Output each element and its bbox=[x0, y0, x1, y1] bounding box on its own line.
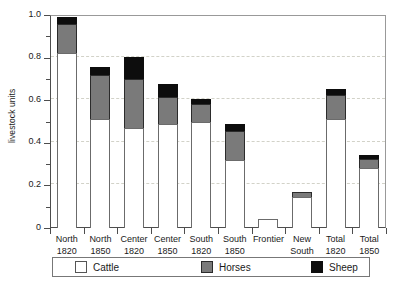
bar-column bbox=[292, 192, 312, 228]
bar-segment-cattle bbox=[191, 122, 211, 229]
x-label-line2: 1850 bbox=[151, 246, 185, 258]
bar-column bbox=[90, 67, 110, 228]
legend-label: Cattle bbox=[93, 262, 119, 273]
legend-item-horses[interactable]: Horses bbox=[201, 258, 251, 276]
bar-column bbox=[191, 99, 211, 228]
x-label-line1: Total bbox=[319, 234, 353, 246]
bar-segment-sheep bbox=[158, 84, 178, 97]
legend-label: Sheep bbox=[329, 262, 358, 273]
chart-plot-area: livestock units 00.20.40.60.81.0 North18… bbox=[0, 0, 398, 287]
x-axis-category-label: South1820 bbox=[184, 234, 218, 257]
legend-item-sheep[interactable]: Sheep bbox=[311, 258, 358, 276]
x-label-line1: Total bbox=[352, 234, 386, 246]
bar-column bbox=[225, 124, 245, 228]
bar-segment-horses bbox=[90, 75, 110, 120]
x-label-line1: South bbox=[218, 234, 252, 246]
x-label-line2: 1820 bbox=[117, 246, 151, 258]
bar-segment-cattle bbox=[258, 219, 278, 228]
x-label-line1: Center bbox=[117, 234, 151, 246]
x-label-line2: 1850 bbox=[218, 246, 252, 258]
bar-segment-cattle bbox=[326, 119, 346, 228]
y-axis-label: livestock units bbox=[4, 0, 20, 232]
bar-segment-sheep bbox=[124, 57, 144, 79]
chart-legend: CattleHorsesSheep bbox=[52, 257, 370, 277]
x-label-line2: 1850 bbox=[84, 246, 118, 258]
bar-segment-horses bbox=[158, 97, 178, 124]
bar-segment-cattle bbox=[90, 119, 110, 228]
bar-segment-horses bbox=[326, 95, 346, 119]
bar-segment-sheep bbox=[90, 67, 110, 74]
bar-column bbox=[158, 84, 178, 228]
legend-label: Horses bbox=[219, 262, 251, 273]
x-label-line1: North bbox=[50, 234, 84, 246]
bar-series-layer bbox=[50, 15, 386, 228]
x-axis-category-label: Center1820 bbox=[117, 234, 151, 257]
figure: livestock units 00.20.40.60.81.0 North18… bbox=[0, 0, 398, 287]
legend-swatch-horses bbox=[201, 261, 213, 273]
x-label-line2: 1820 bbox=[184, 246, 218, 258]
bar-segment-cattle bbox=[57, 53, 77, 228]
x-label-line1: North bbox=[84, 234, 118, 246]
y-tick-label: 0 bbox=[36, 222, 41, 233]
x-axis-category-label: Total1850 bbox=[352, 234, 386, 257]
bar-segment-horses bbox=[57, 24, 77, 54]
legend-item-cattle[interactable]: Cattle bbox=[75, 258, 119, 276]
y-tick-label: 1.0 bbox=[28, 9, 41, 20]
x-axis-category-label: North1850 bbox=[84, 234, 118, 257]
bar-segment-cattle bbox=[158, 124, 178, 228]
bar-column bbox=[326, 89, 346, 228]
bar-column bbox=[258, 219, 278, 228]
bar-column bbox=[359, 155, 379, 228]
legend-swatch-cattle bbox=[75, 261, 87, 273]
x-tick-mark bbox=[386, 228, 387, 234]
x-axis-category-label: NewSouth bbox=[285, 234, 319, 257]
x-axis-category-label: South1850 bbox=[218, 234, 252, 257]
bar-column bbox=[124, 57, 144, 228]
bar-segment-cattle bbox=[359, 168, 379, 228]
x-label-line2: 1850 bbox=[352, 246, 386, 258]
x-label-line1: New bbox=[285, 234, 319, 246]
y-tick-label: 0.6 bbox=[28, 94, 41, 105]
x-label-line1: Frontier bbox=[252, 234, 286, 246]
legend-swatch-sheep bbox=[311, 261, 323, 273]
y-tick-label: 0.4 bbox=[28, 136, 41, 147]
bar-column bbox=[57, 17, 77, 228]
bar-segment-horses bbox=[359, 159, 379, 169]
x-label-line2: South bbox=[285, 246, 319, 258]
bar-segment-cattle bbox=[225, 160, 245, 228]
x-axis-category-label: North1820 bbox=[50, 234, 84, 257]
bar-segment-cattle bbox=[292, 197, 312, 228]
x-axis-category-label: Center1850 bbox=[151, 234, 185, 257]
bar-segment-horses bbox=[225, 131, 245, 160]
y-tick-label: 0.2 bbox=[28, 179, 41, 190]
bar-segment-horses bbox=[191, 104, 211, 121]
x-axis-category-label: Total1820 bbox=[319, 234, 353, 257]
x-axis-category-label: Frontier bbox=[252, 234, 286, 246]
x-label-line2: 1820 bbox=[50, 246, 84, 258]
x-label-line2: 1820 bbox=[319, 246, 353, 258]
bar-segment-sheep bbox=[225, 124, 245, 131]
x-label-line1: Center bbox=[151, 234, 185, 246]
x-label-line1: South bbox=[184, 234, 218, 246]
y-tick-label: 0.8 bbox=[28, 51, 41, 62]
bar-segment-cattle bbox=[124, 128, 144, 228]
bar-segment-horses bbox=[124, 79, 144, 128]
